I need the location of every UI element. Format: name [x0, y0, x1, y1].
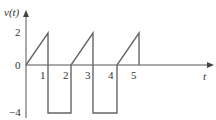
x-tick-2: 2: [63, 69, 69, 81]
x-axis-label: t: [203, 70, 207, 82]
x-axis-arrow-icon: [207, 62, 214, 68]
y-tick-0: 0: [15, 59, 21, 71]
axes: [26, 14, 210, 118]
y-axis-arrow-icon: [23, 10, 29, 17]
x-tick-5: 5: [131, 69, 137, 81]
waveform-chart: v(t) t 2 0 −4 1 2 3 4 5: [0, 0, 216, 120]
y-tick-neg4: −4: [9, 106, 21, 118]
y-axis-label: v(t): [4, 6, 20, 19]
x-tick-3: 3: [85, 69, 91, 81]
y-tick-2: 2: [15, 26, 21, 38]
x-tick-4: 4: [108, 69, 114, 81]
x-tick-1: 1: [40, 69, 46, 81]
